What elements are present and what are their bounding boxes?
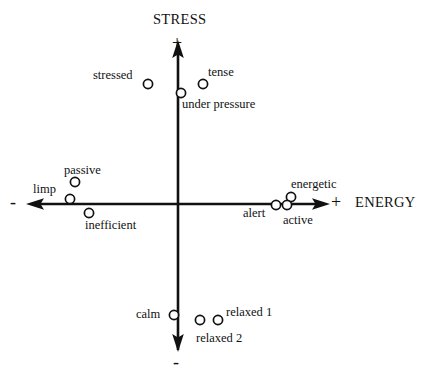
point-label-energetic: energetic <box>291 178 337 191</box>
stress-positive-sign: + <box>172 34 182 52</box>
point-label-active: active <box>283 214 313 227</box>
point-label-passive: passive <box>64 164 101 177</box>
marker-passive <box>70 177 79 186</box>
energy-negative-sign: - <box>10 193 16 211</box>
point-label-limp: limp <box>33 183 56 196</box>
marker-stressed <box>143 79 152 88</box>
stress-axis-title: STRESS <box>153 12 206 27</box>
marker-limp <box>65 194 74 203</box>
point-label-alert: alert <box>243 207 265 220</box>
point-label-calm: calm <box>136 308 160 321</box>
point-label-tense: tense <box>208 66 234 79</box>
stress-negative-sign: - <box>173 353 179 371</box>
marker-active <box>282 200 291 209</box>
point-label-relaxed-2: relaxed 2 <box>196 332 242 345</box>
point-label-inefficient: inefficient <box>85 219 136 232</box>
plot-canvas <box>0 0 423 376</box>
scatter-plot-figure: STRESS + - ENERGY - + stressed tense und… <box>0 0 423 376</box>
stress-axis <box>172 40 184 352</box>
marker-calm <box>169 310 178 319</box>
marker-relaxed-1 <box>213 315 222 324</box>
marker-inefficient <box>84 208 93 217</box>
marker-relaxed-2 <box>195 315 204 324</box>
energy-axis-title: ENERGY <box>355 195 416 210</box>
marker-tense <box>198 79 207 88</box>
data-markers <box>65 79 295 324</box>
marker-alert <box>271 200 280 209</box>
point-label-stressed: stressed <box>93 69 133 82</box>
point-label-relaxed-1: relaxed 1 <box>226 306 272 319</box>
energy-positive-sign: + <box>331 193 341 211</box>
point-label-under-pressure: under pressure <box>182 98 255 111</box>
